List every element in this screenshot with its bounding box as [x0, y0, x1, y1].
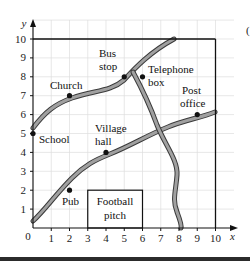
y-tick-5: 5 [21, 127, 27, 139]
x-tick-8: 8 [176, 232, 182, 244]
x-tick-2: 2 [67, 232, 73, 244]
x-tick-7: 7 [158, 232, 164, 244]
y-tick-6: 6 [21, 108, 27, 120]
post-office-label-line1: Post [182, 84, 201, 96]
football-pitch-label-line1: Football [97, 195, 134, 207]
y-axis-label: y [21, 17, 27, 29]
x-tick-10: 10 [210, 232, 222, 244]
x-tick-9: 9 [195, 232, 201, 244]
y-tick-2: 2 [21, 184, 27, 196]
telephone-box-label-line1: Telephone [148, 63, 194, 75]
telephone-box-point [140, 74, 145, 79]
x-tick-4: 4 [103, 232, 109, 244]
post-office-point [195, 112, 200, 117]
church-label: Church [50, 79, 83, 91]
x-tick-labels: 0 1 2 3 4 5 6 7 8 9 10 x [25, 230, 235, 244]
village-hall-label-line2: hall [95, 135, 112, 147]
origin-label: 0 [25, 230, 31, 242]
edge-artifact-glyph: ( [246, 24, 250, 37]
post-office-label-line2: office [180, 97, 206, 109]
x-tick-5: 5 [122, 232, 128, 244]
pub-point [67, 188, 72, 193]
y-tick-labels: 1 2 3 4 5 6 7 8 9 10 y [15, 17, 27, 215]
x-axis-label: x [229, 230, 235, 242]
x-tick-1: 1 [49, 232, 55, 244]
bus-stop-label-line2: stop [99, 60, 118, 72]
bus-stop-point [122, 74, 127, 79]
church-point [67, 93, 72, 98]
football-pitch-label-line2: pitch [104, 209, 126, 221]
football-pitch: Football pitch [88, 190, 143, 228]
y-tick-10: 10 [15, 33, 27, 45]
school-label: School [39, 133, 70, 145]
x-tick-3: 3 [85, 232, 91, 244]
x-tick-6: 6 [140, 232, 146, 244]
bottom-border-bar [0, 257, 250, 261]
bus-stop-label-line1: Bus [99, 47, 116, 59]
y-tick-7: 7 [21, 89, 27, 101]
y-tick-4: 4 [21, 146, 27, 158]
school-point [30, 131, 35, 136]
village-hall-label-line1: Village [95, 122, 127, 134]
map-diagram: Football pitch 0 1 2 3 4 5 6 7 8 9 10 x [0, 0, 250, 261]
y-tick-8: 8 [21, 70, 27, 82]
village-hall-point [103, 150, 108, 155]
y-tick-9: 9 [21, 51, 27, 63]
y-tick-3: 3 [21, 165, 27, 177]
y-tick-1: 1 [21, 203, 27, 215]
pub-label: Pub [62, 195, 80, 207]
telephone-box-label-line2: box [148, 76, 165, 88]
